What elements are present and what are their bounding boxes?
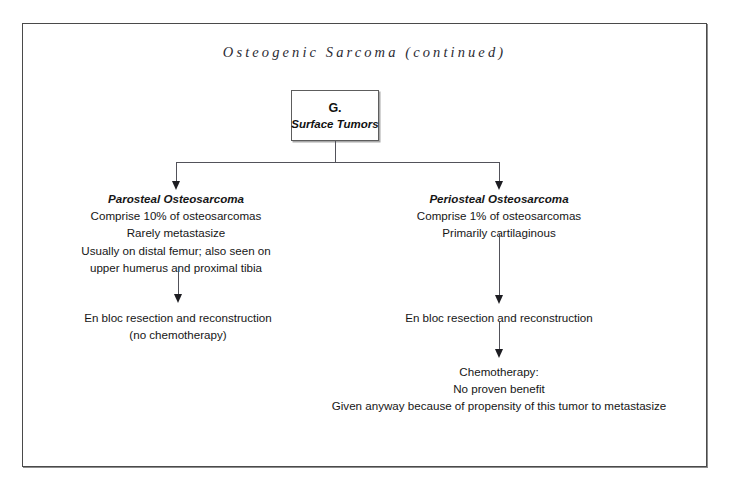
connector-right-drop	[499, 162, 500, 183]
node-periosteal-heading: Periosteal Osteosarcoma	[349, 190, 649, 207]
connector-periosteal-to-treatment	[499, 234, 500, 296]
connector-left-drop	[176, 162, 177, 183]
root-node-letter: G.	[328, 100, 341, 116]
arrowhead-periosteal-treatment	[495, 295, 503, 304]
node-chemotherapy-line-2: No proven benefit	[299, 380, 699, 397]
root-node-label: Surface Tumors	[291, 116, 378, 132]
node-parosteal-treatment-line-2: (no chemotherapy)	[28, 326, 328, 343]
page-title: Osteogenic Sarcoma (continued)	[0, 44, 729, 61]
node-parosteal-osteosarcoma: Parosteal Osteosarcoma Comprise 10% of o…	[26, 190, 326, 276]
node-parosteal-line-2: Rarely metastasize	[26, 224, 326, 241]
node-chemotherapy: Chemotherapy: No proven benefit Given an…	[299, 363, 699, 415]
root-node-box: G. Surface Tumors	[291, 90, 379, 141]
connector-root-stem	[335, 141, 336, 163]
connector-split-bar	[176, 162, 500, 163]
connector-parosteal-to-treatment	[178, 267, 179, 295]
node-parosteal-treatment: En bloc resection and reconstruction (no…	[28, 309, 328, 343]
node-chemotherapy-line-1: Chemotherapy:	[299, 363, 699, 380]
page-canvas: Osteogenic Sarcoma (continued) G. Surfac…	[0, 0, 729, 492]
node-parosteal-treatment-line-1: En bloc resection and reconstruction	[28, 309, 328, 326]
arrowhead-parosteal-treatment	[174, 294, 182, 303]
connector-treatment-to-chemotherapy	[499, 322, 500, 350]
node-periosteal-line-1: Comprise 1% of osteosarcomas	[349, 207, 649, 224]
arrowhead-left-branch	[172, 181, 180, 190]
arrowhead-right-branch	[495, 181, 503, 190]
node-parosteal-line-3: Usually on distal femur; also seen on	[26, 242, 326, 259]
arrowhead-chemotherapy	[495, 349, 503, 358]
node-parosteal-line-4: upper humerus and proximal tibia	[26, 259, 326, 276]
node-chemotherapy-line-3: Given anyway because of propensity of th…	[299, 397, 699, 414]
node-parosteal-heading: Parosteal Osteosarcoma	[26, 190, 326, 207]
node-parosteal-line-1: Comprise 10% of osteosarcomas	[26, 207, 326, 224]
